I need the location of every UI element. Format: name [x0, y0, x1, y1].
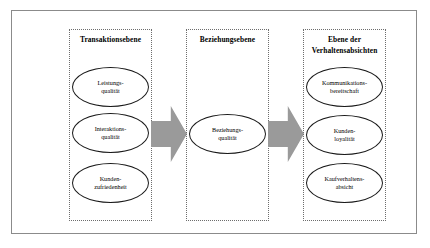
node-leistungsqualitaet: Leistungs- qualität — [72, 67, 149, 107]
node-label-kundenloyalitaet: Kunden- loyalität — [331, 127, 359, 142]
node-label-leistungsqualitaet: Leistungs- qualität — [94, 79, 126, 94]
node-label-beziehungsqualitaet: Beziehungs- qualität — [209, 126, 246, 141]
node-label-kommunikationsbereitschaft: Kommunikations- bereitschaft — [319, 79, 370, 94]
flow-arrow-beziehung-to-verhalten — [268, 106, 304, 162]
column-title-beziehungsebene: Beziehungsebene — [187, 35, 268, 46]
node-label-kundenzufriedenheit: Kunden- zufriedenheit — [91, 175, 130, 190]
diagram-frame: Transaktionsebene Leistungs- qualität In… — [11, 10, 417, 234]
node-label-kaufverhaltensabsicht: Kaufverhaltens- absicht — [322, 175, 368, 190]
node-beziehungsqualitaet: Beziehungs- qualität — [189, 114, 266, 154]
node-kundenzufriedenheit: Kunden- zufriedenheit — [72, 163, 149, 203]
node-kaufverhaltensabsicht: Kaufverhaltens- absicht — [306, 163, 383, 203]
node-interaktionsqualitaet: Interaktions- qualität — [72, 113, 149, 153]
node-label-interaktionsqualitaet: Interaktions- qualität — [92, 125, 130, 140]
column-title-transaktionsebene: Transaktionsebene — [70, 35, 151, 46]
node-kommunikationsbereitschaft: Kommunikations- bereitschaft — [306, 67, 383, 107]
node-kundenloyalitaet: Kunden- loyalität — [306, 115, 383, 155]
column-title-verhaltensabsichten: Ebene der Verhaltensabsichten — [304, 35, 385, 56]
flow-arrow-transaktion-to-beziehung — [151, 106, 187, 162]
